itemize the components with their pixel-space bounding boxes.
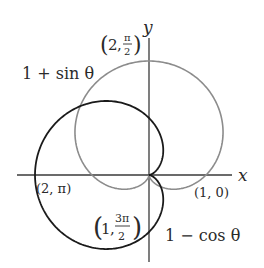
polar-cardioid-diagram: x y 1 + sin θ 1 − cos θ ( 2 , π 2 ) (2, … <box>0 0 264 268</box>
point-label-2-pi: (2, π) <box>36 181 71 196</box>
x-axis-label: x <box>238 165 248 185</box>
frac-den: 2 <box>118 230 125 243</box>
paren-right: ) <box>133 32 142 57</box>
point-label-2-pi-over-2: ( 2 , π 2 ) <box>100 32 142 57</box>
curve-label-1-plus-sin: 1 + sin θ <box>22 64 94 83</box>
point-label-1-3pi-over-2: ( 1 , 3π 2 ) <box>93 212 142 243</box>
curve-label-1-minus-cos: 1 − cos θ <box>165 226 240 245</box>
point-label-1-0: (1, 0) <box>194 185 229 200</box>
frac-num: 3π <box>115 212 129 225</box>
paren-right: ) <box>132 212 142 242</box>
frac-den: 2 <box>124 46 130 57</box>
comma: , <box>117 36 122 54</box>
y-axis-label: y <box>142 17 153 37</box>
frac-num: π <box>124 32 131 43</box>
